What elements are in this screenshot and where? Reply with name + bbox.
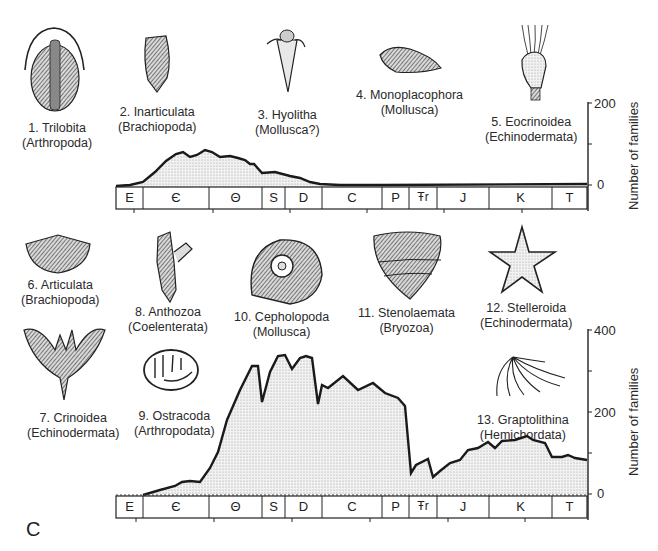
- top-y-tick-0: 0: [597, 177, 604, 192]
- period-label: Θ: [209, 499, 262, 514]
- panel-letter: C: [26, 518, 40, 541]
- bottom-y-tick-200: 200: [594, 405, 616, 420]
- top-y-tick-200: 200: [594, 96, 616, 111]
- period-label: J: [437, 499, 489, 514]
- period-label: C: [322, 190, 382, 205]
- period-label: J: [437, 190, 489, 205]
- period-label: S: [262, 499, 285, 514]
- bottom-y-tick-400: 400: [594, 323, 616, 338]
- figure-canvas: [0, 0, 658, 551]
- period-label: P: [382, 190, 409, 205]
- inarticulate-brachiopod-icon: [145, 36, 169, 92]
- crinoid-icon: [24, 329, 105, 400]
- period-label: T: [552, 499, 587, 514]
- eocrinoid-icon: [522, 25, 548, 100]
- bryozoan-icon: [374, 232, 441, 299]
- period-label: Є: [143, 190, 209, 205]
- graptolite-icon: [497, 357, 565, 396]
- period-label: Ŧr: [409, 499, 437, 513]
- ammonite-icon: [251, 240, 322, 304]
- starfish-icon: [490, 227, 555, 292]
- period-label: C: [322, 499, 382, 514]
- period-label: P: [382, 499, 409, 514]
- period-label: Θ: [209, 190, 262, 205]
- period-label: E: [116, 499, 143, 514]
- ostracod-icon: [144, 350, 198, 390]
- hyolith-icon: [267, 30, 305, 92]
- bottom-chart-area: [143, 355, 587, 495]
- top-y-axis-label: Number of families: [626, 102, 641, 210]
- bottom-y-axis-label: Number of families: [626, 368, 641, 476]
- bottom-y-tick-0: 0: [597, 486, 604, 501]
- period-label: Є: [143, 499, 209, 514]
- period-label: S: [262, 190, 285, 205]
- period-label: K: [489, 499, 552, 514]
- coral-icon: [157, 232, 192, 302]
- monoplacophoran-icon: [380, 47, 441, 72]
- articulate-brachiopod-icon: [26, 235, 90, 273]
- period-label: Ŧr: [409, 190, 437, 204]
- period-label: D: [285, 190, 322, 205]
- period-label: E: [116, 190, 143, 205]
- period-label: T: [552, 190, 587, 205]
- period-label: K: [489, 190, 552, 205]
- trilobite-icon: [25, 28, 84, 111]
- period-label: D: [285, 499, 322, 514]
